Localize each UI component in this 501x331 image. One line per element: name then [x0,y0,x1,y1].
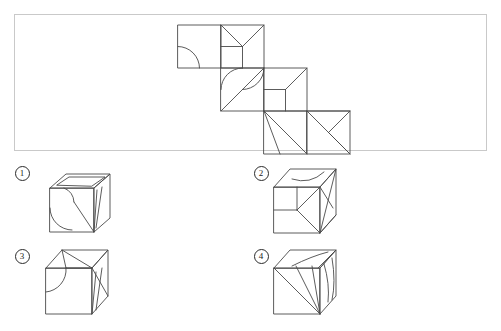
option-4-label: 4 [253,249,269,265]
option-2-front-diagonal-b [297,210,320,233]
option-1-front-diagonal [74,202,94,232]
option-1-front-arc-large [50,208,72,230]
option-1-label: 1 [14,166,30,182]
option-3-cube[interactable] [40,244,116,320]
option-3-top-diagonal [62,250,92,268]
option-3-right-sliver-a [92,272,96,314]
net-panel-border [15,15,487,151]
option-1-front-arc-small [64,188,74,202]
option-2-cube[interactable] [268,163,346,241]
option-2-front-diagonal-a [297,187,320,210]
option-4-numeral: 4 [254,249,269,264]
option-3-label: 3 [14,249,30,265]
option-3-top-vertical [62,250,66,268]
option-3-front-arc [46,268,66,292]
option-2-top-face [274,169,336,187]
option-2-top-arc [292,172,324,181]
option-4-right-curve-a [324,264,329,302]
option-1-numeral: 1 [15,166,30,181]
option-4-right-curve-b [332,258,334,300]
puzzle-page: 1 2 3 [0,0,501,331]
option-2-label: 2 [253,166,269,182]
option-1-cube[interactable] [44,168,116,240]
option-4-cube[interactable] [268,244,346,322]
option-2-numeral: 2 [254,166,269,181]
option-3-numeral: 3 [15,249,30,264]
option-3-front-face [46,268,92,314]
